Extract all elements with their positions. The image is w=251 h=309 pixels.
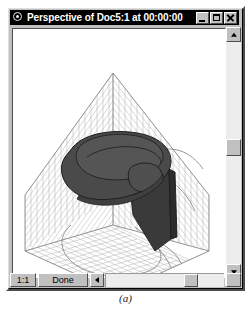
status-bar: 1:1 Done — [10, 273, 239, 287]
vertical-scroll-track[interactable] — [226, 42, 241, 264]
horizontal-scroll-track[interactable] — [105, 273, 224, 287]
scroll-up-button[interactable] — [226, 27, 241, 42]
horizontal-scroll-thumb[interactable] — [184, 274, 198, 287]
vertical-scrollbar[interactable] — [226, 27, 241, 279]
resize-corner[interactable] — [226, 273, 241, 287]
close-button[interactable] — [224, 12, 237, 24]
grid-floor — [25, 225, 209, 277]
scroll-left-button[interactable] — [90, 273, 104, 287]
minimize-icon — [199, 20, 205, 22]
perspective-camera-icon — [12, 12, 24, 23]
perspective-viewport[interactable] — [12, 28, 226, 278]
scale-button[interactable]: 1:1 — [10, 273, 36, 287]
figure-container: Perspective of Doc5:1 at 00:00:00 — [0, 0, 251, 309]
minimize-button[interactable] — [196, 12, 209, 24]
triangle-up-icon — [231, 32, 237, 36]
title-bar[interactable]: Perspective of Doc5:1 at 00:00:00 — [10, 10, 239, 25]
window-controls — [196, 12, 237, 24]
maximize-icon — [213, 14, 220, 21]
vertical-scroll-thumb[interactable] — [226, 139, 241, 156]
application-window: Perspective of Doc5:1 at 00:00:00 — [6, 6, 245, 291]
maximize-button[interactable] — [210, 12, 223, 24]
triangle-left-icon — [95, 277, 99, 283]
done-button[interactable]: Done — [38, 273, 88, 287]
scene-3d — [13, 29, 225, 277]
figure-caption: (a) — [0, 292, 251, 304]
window-title: Perspective of Doc5:1 at 00:00:00 — [27, 12, 196, 23]
